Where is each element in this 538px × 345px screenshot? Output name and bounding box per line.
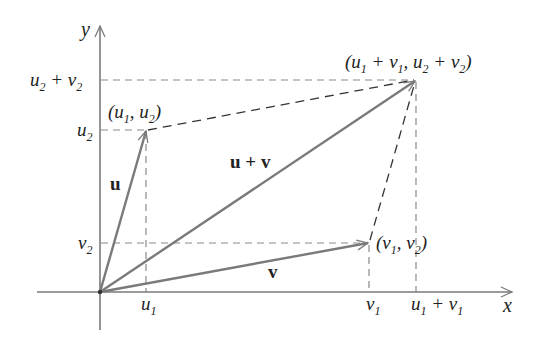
y-tick-v2: v2 xyxy=(78,232,92,257)
point-sum-label: (u1 + v1, u2 + v2) xyxy=(345,51,472,76)
point-v-label: (v1, v2) xyxy=(376,232,427,257)
vector-u-plus-v-label: u + v xyxy=(230,151,271,172)
vector-v xyxy=(100,243,368,292)
edge-u-to-sum xyxy=(148,80,414,130)
x-tick-u1-plus-v1: u1 + v1 xyxy=(411,293,463,318)
x-tick-u1: u1 xyxy=(141,293,157,318)
origin-point xyxy=(98,290,102,294)
vector-u xyxy=(100,131,146,292)
vector-v-label: v xyxy=(268,261,278,282)
y-axis-label: y xyxy=(79,18,90,41)
vector-addition-diagram: y x u v u + v (u1, u2) (v1, v2) (u1 + v1… xyxy=(0,0,538,345)
parallelogram-edges xyxy=(148,80,415,240)
x-axis-label: x xyxy=(502,294,512,316)
point-u-label: (u1, u2) xyxy=(108,101,161,126)
x-tick-v1: v1 xyxy=(366,293,380,318)
vector-u-label: u xyxy=(110,173,121,194)
y-tick-u2: u2 xyxy=(77,119,93,144)
y-tick-u2-plus-v2: u2 + v2 xyxy=(30,69,82,94)
